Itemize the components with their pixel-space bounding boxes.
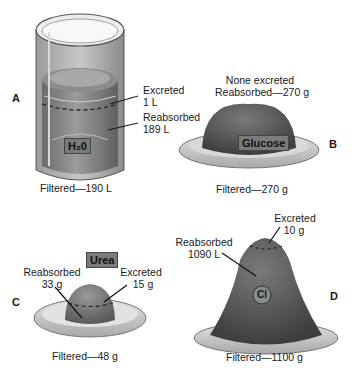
excreted-value-c: 15 g [118, 278, 168, 290]
excreted-value-a: 1 L [143, 96, 158, 108]
panel-letter-c: C [12, 296, 20, 308]
filtered-label-b: Filtered—270 g [216, 183, 288, 195]
panel-letter-b: B [329, 138, 337, 150]
reabsorbed-value-a: 189 L [143, 123, 169, 135]
reabsorbed-text-b: Reabsorbed—270 g [215, 86, 309, 98]
excreted-label-c: Excreted [116, 266, 166, 278]
reabsorbed-label-a: Reabsorbed [143, 111, 200, 123]
reabsorbed-label-c: Reabsorbed [22, 266, 82, 278]
substance-tag-glucose: Glucose [238, 135, 289, 151]
substance-tag-urea: Urea [86, 252, 118, 268]
substance-tag-h2o: H₂0 [64, 138, 91, 154]
excreted-label-d: Excreted [270, 212, 320, 224]
panel-letter-a: A [12, 92, 20, 104]
filtered-label-a: Filtered—190 L [40, 182, 112, 194]
reabsorbed-value-c: 33 g [22, 278, 82, 290]
beaker-icon [36, 14, 124, 180]
reabsorbed-value-d: 1090 L [184, 248, 224, 260]
filtered-label-d: Filtered—1100 g [226, 351, 303, 363]
excreted-text-b: None excreted [220, 74, 300, 86]
panel-letter-d: D [330, 290, 338, 302]
reabsorbed-label-d: Reabsorbed [172, 236, 236, 248]
excreted-label-a: Excreted [143, 84, 184, 96]
excreted-value-d: 10 g [274, 224, 314, 236]
urea-cone-icon [34, 284, 146, 337]
substance-tag-cl: Cl [257, 289, 267, 301]
filtered-label-c: Filtered—48 g [52, 350, 118, 362]
